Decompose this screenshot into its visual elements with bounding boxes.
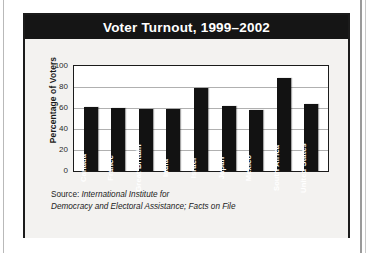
source-label: Source:: [51, 190, 82, 199]
bar-great-britain[interactable]: Great Britain: [139, 109, 153, 171]
y-axis-tick-labels: 020406080100: [47, 39, 71, 185]
chart-body: Percentage of Voters 020406080100 Canada…: [25, 39, 348, 238]
bar-japan[interactable]: Japan: [222, 106, 236, 171]
bar-label-great-britain: Great Britain: [132, 144, 146, 191]
page-edge-right-artifact: [360, 0, 362, 253]
bar-mexico[interactable]: Mexico: [249, 110, 263, 171]
bar-slot: France: [105, 66, 133, 171]
source-note: Source: International Institute for Demo…: [51, 189, 331, 212]
bar-slot: Great Britain: [132, 66, 160, 171]
bar-slot: Israel: [187, 66, 215, 171]
source-citation-line-2: Democracy and Electoral Assistance; Fact…: [51, 202, 235, 211]
bar-slot: United States: [298, 66, 326, 171]
source-citation-line-1: International Institute for: [82, 190, 170, 199]
chart-title-bar: Voter Turnout, 1999–2002: [25, 15, 348, 39]
bar-label-france: France: [104, 155, 118, 181]
y-axis-tick-60: 60: [59, 103, 68, 112]
y-axis-tick-20: 20: [59, 145, 68, 154]
chart-title: Voter Turnout, 1999–2002: [103, 20, 270, 35]
bar-label-japan: Japan: [215, 157, 229, 179]
bar-label-south-africa: South Africa: [270, 145, 284, 191]
bar-israel[interactable]: Israel: [194, 88, 208, 171]
bar-slot: Mexico: [242, 66, 270, 171]
plot-area: CanadaFranceGreat BritainIndiaIsraelJapa…: [73, 65, 329, 172]
bar-slot: South Africa: [270, 66, 298, 171]
bar-slot: Japan: [215, 66, 243, 171]
y-axis-tick-80: 80: [59, 82, 68, 91]
bar-label-india: India: [159, 159, 173, 177]
bar-slot: Canada: [77, 66, 105, 171]
bar-label-canada: Canada: [77, 154, 91, 182]
page-edge-right-artifact-2: [365, 0, 366, 253]
y-axis-tick-40: 40: [59, 124, 68, 133]
bar-label-united-states: United States: [297, 143, 311, 193]
y-axis-tick-100: 100: [55, 61, 68, 70]
bar-label-israel: Israel: [187, 158, 201, 178]
chart-figure: Voter Turnout, 1999–2002 Percentage of V…: [23, 13, 350, 238]
bar-south-africa[interactable]: South Africa: [277, 78, 291, 171]
bar-united-states[interactable]: United States: [304, 104, 318, 171]
page-edge-left-artifact: [3, 0, 4, 253]
bar-series: CanadaFranceGreat BritainIndiaIsraelJapa…: [74, 66, 328, 171]
bar-india[interactable]: India: [166, 109, 180, 171]
bar-canada[interactable]: Canada: [84, 107, 98, 171]
bar-label-mexico: Mexico: [242, 155, 256, 181]
bar-slot: India: [160, 66, 188, 171]
y-axis-tick-0: 0: [64, 166, 68, 175]
bar-france[interactable]: France: [111, 108, 125, 171]
